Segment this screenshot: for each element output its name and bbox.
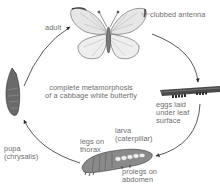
prolegs-label-line-2: abdomen bbox=[122, 176, 157, 184]
eggs-label: eggs laid under leaf surface bbox=[156, 101, 189, 126]
life-cycle-diagram: adult clubbed antenna complete metamorph… bbox=[0, 0, 220, 186]
prolegs-label: prolegs on abdomen bbox=[122, 168, 157, 184]
pupa-label: pupa (chrysalis) bbox=[4, 145, 38, 161]
butterfly-illustration bbox=[71, 8, 147, 59]
title-line-2: of a cabbage white butterfly bbox=[42, 92, 140, 100]
adult-label-line: adult bbox=[45, 24, 61, 32]
pupa-illustration bbox=[6, 68, 20, 115]
antenna-label-line: clubbed antenna bbox=[150, 11, 205, 19]
larva-label-line-2: (caterpillar) bbox=[115, 135, 153, 143]
larva-label: larva (caterpillar) bbox=[115, 127, 153, 143]
legs-label: legs on thorax bbox=[80, 138, 104, 154]
pupa-label-line-2: (chrysalis) bbox=[4, 153, 38, 161]
eggs-label-line-3: surface bbox=[156, 117, 189, 125]
adult-label: adult bbox=[45, 24, 61, 32]
arrow-adult-to-eggs bbox=[152, 34, 198, 82]
diagram-title: complete metamorphosis of a cabbage whit… bbox=[42, 84, 140, 100]
legs-label-line-2: thorax bbox=[80, 146, 104, 154]
arrow-pupa-to-adult bbox=[24, 27, 70, 86]
leaf-with-eggs-illustration bbox=[160, 86, 220, 98]
antenna-label: clubbed antenna bbox=[150, 11, 205, 19]
